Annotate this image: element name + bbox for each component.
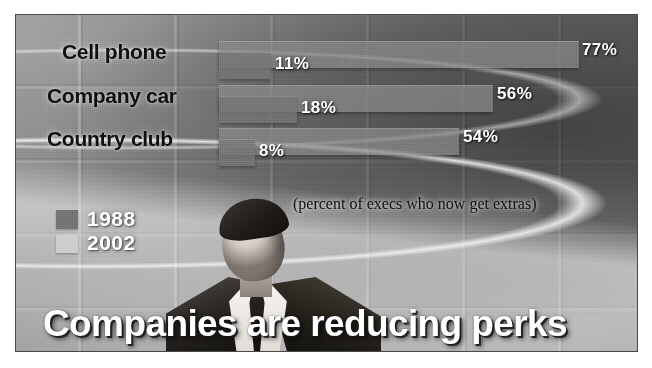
infographic-page: Cell phone 11% 77% Company car 18% 56% C… (0, 0, 652, 368)
bar-cell-phone-1988 (219, 52, 271, 79)
row-label-country-club: Country club (47, 127, 173, 151)
legend-swatch-2002 (56, 234, 78, 253)
bar-cell-phone-2002 (219, 41, 579, 68)
legend-swatch-1988 (56, 210, 78, 229)
legend-item-1988: 1988 (56, 207, 136, 231)
headline-title: Companies are reducing perks (43, 303, 567, 345)
value-cell-phone-2002: 77% (582, 40, 617, 60)
legend-item-2002: 2002 (56, 231, 136, 255)
value-cell-phone-1988: 11% (275, 54, 309, 74)
bar-country-club-2002 (219, 128, 459, 155)
bar-chart: Cell phone 11% 77% Company car 18% 56% C… (16, 15, 637, 351)
legend-label-2002: 2002 (87, 231, 136, 255)
value-company-car-1988: 18% (301, 98, 336, 118)
chart-subtitle: (percent of execs who now get extras) (293, 195, 536, 213)
infographic-plate: Cell phone 11% 77% Company car 18% 56% C… (15, 14, 638, 352)
value-company-car-2002: 56% (497, 84, 532, 104)
value-country-club-1988: 8% (259, 141, 284, 161)
bar-company-car-1988 (219, 96, 297, 123)
value-country-club-2002: 54% (463, 127, 498, 147)
row-label-cell-phone: Cell phone (62, 40, 166, 64)
row-label-company-car: Company car (47, 84, 177, 108)
bar-country-club-1988 (219, 139, 255, 166)
legend-label-1988: 1988 (87, 207, 136, 231)
